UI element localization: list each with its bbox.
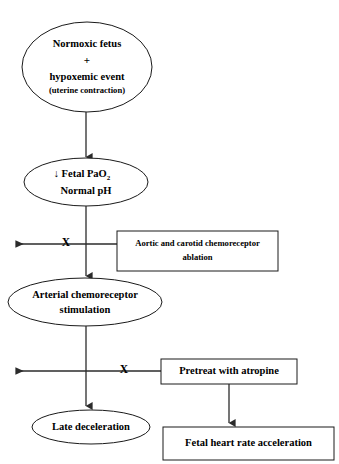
node-fetal-pao2 [24, 158, 148, 206]
node-arterial-stimulation [8, 278, 162, 326]
node-normoxic-fetus-line3: hypoxemic event [50, 71, 125, 82]
node-fhr-acceleration-label: Fetal heart rate acceleration [185, 437, 312, 448]
block-marker-upper: X [62, 236, 71, 248]
node-normoxic-fetus-line1: Normoxic fetus [53, 38, 122, 49]
flowchart-canvas: Normoxic fetus + hypoxemic event (uterin… [0, 0, 339, 464]
node-normoxic-fetus-plus: + [84, 54, 90, 66]
node-fetal-pao2-label: ↓ Fetal PaO [54, 168, 107, 179]
node-pretreat-atropine-label: Pretreat with atropine [179, 365, 279, 376]
node-fetal-pao2-subscript: 2 [107, 173, 111, 181]
node-late-deceleration-label: Late deceleration [52, 421, 130, 432]
node-chemoreceptor-ablation-line2: ablation [182, 252, 212, 262]
node-chemoreceptor-ablation-line1: Aortic and carotid chemoreceptor [135, 238, 260, 248]
node-fetal-pao2-line2: Normal pH [60, 185, 111, 196]
node-fetal-pao2-line1: ↓ Fetal PaO2 [54, 168, 111, 181]
node-arterial-stimulation-line1: Arterial chemoreceptor [32, 289, 138, 300]
flowchart-diagram: Normoxic fetus + hypoxemic event (uterin… [0, 0, 339, 464]
node-normoxic-fetus [22, 22, 152, 112]
block-marker-lower: X [120, 363, 129, 375]
node-arterial-stimulation-line2: stimulation [60, 304, 111, 315]
node-normoxic-fetus-line4: (uterine contraction) [49, 85, 125, 95]
